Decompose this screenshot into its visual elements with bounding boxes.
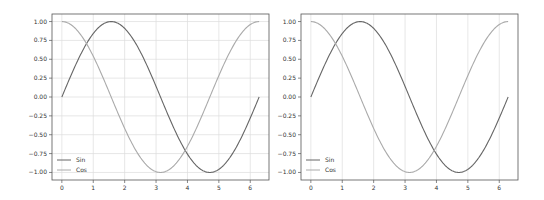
x-tick-label: 5 bbox=[466, 184, 470, 191]
y-tick-label: 0.00 bbox=[34, 93, 48, 100]
y-tick-label: 0.25 bbox=[283, 74, 297, 81]
right-chart-grid-x: 01234561.000.750.500.250.00−0.25−0.50−0.… bbox=[249, 0, 521, 200]
y-tick-label: −1.00 bbox=[29, 168, 48, 175]
legend-cos-label: Cos bbox=[76, 166, 87, 173]
grid-lines bbox=[311, 14, 499, 180]
y-tick-label: 0.50 bbox=[34, 55, 48, 62]
x-tick-label: 5 bbox=[217, 184, 221, 191]
x-tick-label: 6 bbox=[497, 184, 501, 191]
y-tick-label: −0.75 bbox=[29, 150, 48, 157]
y-tick-label: −0.75 bbox=[278, 150, 297, 157]
y-tick-label: 0.25 bbox=[34, 74, 48, 81]
legend-cos-label: Cos bbox=[325, 166, 336, 173]
x-tick-label: 0 bbox=[60, 184, 64, 191]
left-chart-grid-both: 01234561.000.750.500.250.00−0.25−0.50−0.… bbox=[0, 0, 272, 200]
y-tick-label: 0.75 bbox=[283, 36, 297, 43]
y-tick-label: −0.50 bbox=[278, 131, 297, 138]
y-tick-label: −0.25 bbox=[29, 112, 48, 119]
x-tick-label: 3 bbox=[403, 184, 407, 191]
y-tick-label: 1.00 bbox=[283, 18, 297, 25]
right-plot-svg: 01234561.000.750.500.250.00−0.25−0.50−0.… bbox=[249, 0, 544, 200]
x-tick-label: 0 bbox=[309, 184, 313, 191]
x-tick-label: 4 bbox=[435, 184, 439, 191]
y-tick-label: −0.25 bbox=[278, 112, 297, 119]
legend-sin-label: Sin bbox=[325, 156, 334, 163]
y-tick-label: 0.00 bbox=[283, 93, 297, 100]
x-tick-label: 1 bbox=[91, 184, 95, 191]
y-tick-label: 1.00 bbox=[34, 18, 48, 25]
legend: Sin Cos bbox=[57, 156, 87, 173]
y-tick-label: 0.50 bbox=[283, 55, 297, 62]
x-tick-label: 4 bbox=[186, 184, 190, 191]
y-tick-label: −0.50 bbox=[29, 131, 48, 138]
series-lines bbox=[311, 22, 508, 173]
x-tick-label: 2 bbox=[372, 184, 376, 191]
legend-sin-label: Sin bbox=[76, 156, 85, 163]
x-tick-label: 1 bbox=[340, 184, 344, 191]
x-tick-label: 3 bbox=[154, 184, 158, 191]
sin-line bbox=[311, 22, 508, 173]
x-tick-label: 2 bbox=[123, 184, 127, 191]
y-tick-label: 0.75 bbox=[34, 36, 48, 43]
legend: Sin Cos bbox=[306, 156, 336, 173]
left-plot-svg: 01234561.000.750.500.250.00−0.25−0.50−0.… bbox=[0, 0, 272, 200]
y-tick-label: −1.00 bbox=[278, 168, 297, 175]
